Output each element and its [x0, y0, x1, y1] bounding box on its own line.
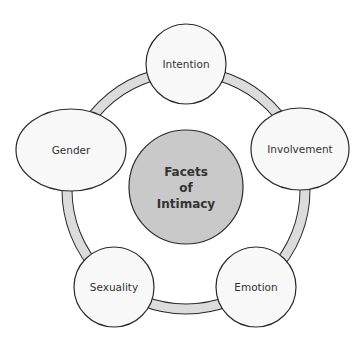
- node-intention-label: Intention: [162, 58, 209, 70]
- center-label-line-2: of: [179, 181, 193, 195]
- center-label-line-1: Facets: [164, 165, 208, 179]
- facets-of-intimacy-diagram: Facets of Intimacy Intention Involvement…: [0, 0, 363, 342]
- node-gender: Gender: [16, 109, 126, 191]
- node-sexuality-label: Sexuality: [90, 281, 138, 293]
- node-intention: Intention: [146, 24, 226, 104]
- node-gender-label: Gender: [52, 144, 91, 156]
- node-involvement-label: Involvement: [267, 143, 332, 155]
- center-label-line-3: Intimacy: [157, 197, 216, 211]
- node-sexuality: Sexuality: [74, 247, 154, 327]
- node-involvement: Involvement: [251, 108, 349, 190]
- center-node: Facets of Intimacy: [129, 130, 243, 244]
- node-emotion-label: Emotion: [234, 281, 277, 293]
- node-emotion: Emotion: [216, 247, 296, 327]
